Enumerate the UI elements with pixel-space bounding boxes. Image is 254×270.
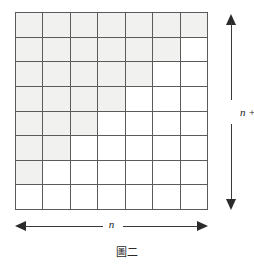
grid-cell-shaded bbox=[125, 13, 152, 38]
grid-cell-empty bbox=[98, 160, 125, 185]
grid-row bbox=[16, 111, 208, 136]
grid-cell-empty bbox=[125, 160, 152, 185]
grid-diagram bbox=[15, 12, 208, 210]
grid-cell-shaded bbox=[125, 62, 152, 87]
vertical-dimension-label: n + 1 bbox=[239, 104, 254, 120]
grid-cell-empty bbox=[180, 160, 207, 185]
grid-cell-empty bbox=[180, 86, 207, 111]
grid-cell-empty bbox=[125, 136, 152, 161]
grid-cell-shaded bbox=[43, 62, 70, 87]
grid-cell-empty bbox=[98, 185, 125, 210]
grid-cell-empty bbox=[125, 111, 152, 136]
vertical-dimension-arrow: n + 1 bbox=[222, 14, 254, 210]
grid-cell-shaded bbox=[43, 13, 70, 38]
grid-cell-empty bbox=[125, 86, 152, 111]
grid-cell-shaded bbox=[70, 62, 97, 87]
grid-cell-empty bbox=[43, 185, 70, 210]
grid-cell-shaded bbox=[153, 13, 180, 38]
grid-cell-shaded bbox=[16, 13, 43, 38]
grid-cell-shaded bbox=[16, 62, 43, 87]
grid-cell-shaded bbox=[98, 62, 125, 87]
grid-cell-empty bbox=[180, 37, 207, 62]
grid-cell-empty bbox=[70, 160, 97, 185]
grid-cell-empty bbox=[153, 136, 180, 161]
grid-row bbox=[16, 86, 208, 111]
grid-cell-shaded bbox=[43, 37, 70, 62]
grid-cell-empty bbox=[70, 136, 97, 161]
grid-cell-shaded bbox=[125, 37, 152, 62]
grid-cell-shaded bbox=[70, 86, 97, 111]
grid-cell-empty bbox=[180, 185, 207, 210]
grid-cell-empty bbox=[16, 185, 43, 210]
grid-cell-shaded bbox=[16, 37, 43, 62]
grid-cell-empty bbox=[153, 160, 180, 185]
vertical-dimension-line-bottom bbox=[231, 124, 232, 202]
grid-cell-shaded bbox=[98, 37, 125, 62]
figure-caption: 圖二 bbox=[0, 243, 254, 259]
grid-cell-empty bbox=[98, 136, 125, 161]
grid-cell-empty bbox=[153, 86, 180, 111]
grid-cell-empty bbox=[43, 160, 70, 185]
grid-row bbox=[16, 37, 208, 62]
grid-cell-shaded bbox=[153, 37, 180, 62]
grid-cell-empty bbox=[180, 136, 207, 161]
grid-cell-empty bbox=[153, 185, 180, 210]
grid-cell-empty bbox=[98, 111, 125, 136]
figure-container: n + 1 n 圖二 bbox=[0, 0, 254, 270]
grid-row bbox=[16, 13, 208, 38]
grid-cell-shaded bbox=[180, 13, 207, 38]
grid-cell-shaded bbox=[43, 136, 70, 161]
grid-cell-shaded bbox=[70, 13, 97, 38]
grid-cell-shaded bbox=[70, 111, 97, 136]
grid-cell-shaded bbox=[16, 86, 43, 111]
grid-row bbox=[16, 185, 208, 210]
grid-table bbox=[15, 12, 208, 210]
grid-cell-empty bbox=[180, 111, 207, 136]
grid-cell-empty bbox=[180, 62, 207, 87]
grid-row bbox=[16, 62, 208, 87]
horizontal-dimension-label: n bbox=[15, 218, 208, 230]
grid-cell-shaded bbox=[43, 111, 70, 136]
horizontal-dimension-line-right bbox=[123, 226, 198, 227]
grid-cell-shaded bbox=[16, 111, 43, 136]
arrow-down-icon bbox=[226, 199, 236, 210]
grid-cell-empty bbox=[153, 111, 180, 136]
grid-cell-empty bbox=[70, 185, 97, 210]
horizontal-dimension-arrow: n bbox=[15, 216, 208, 238]
grid-body bbox=[16, 13, 208, 210]
arrow-right-icon bbox=[197, 221, 208, 231]
grid-cell-shaded bbox=[16, 160, 43, 185]
grid-row bbox=[16, 136, 208, 161]
grid-cell-shaded bbox=[98, 13, 125, 38]
grid-cell-shaded bbox=[70, 37, 97, 62]
grid-cell-shaded bbox=[16, 136, 43, 161]
grid-cell-shaded bbox=[98, 86, 125, 111]
grid-cell-empty bbox=[125, 185, 152, 210]
grid-cell-shaded bbox=[43, 86, 70, 111]
grid-cell-empty bbox=[153, 62, 180, 87]
vertical-dimension-line-top bbox=[231, 22, 232, 100]
grid-row bbox=[16, 160, 208, 185]
